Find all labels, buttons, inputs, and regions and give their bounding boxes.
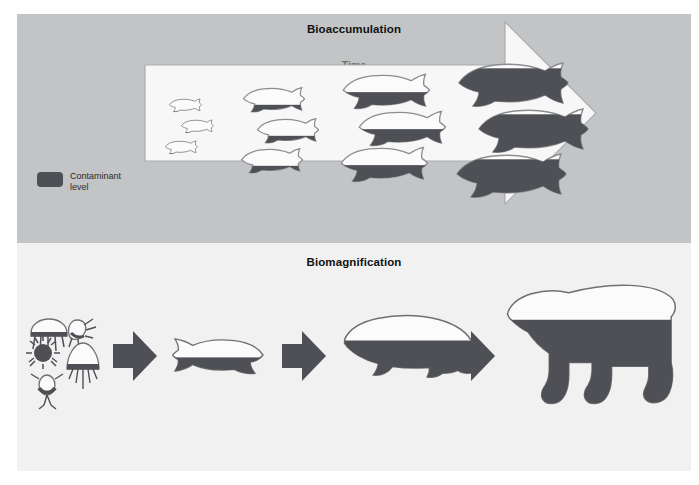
diagram-figure: Bioaccumulation Time (0, 0, 699, 485)
legend-bioaccumulation: Contaminant level (37, 171, 121, 193)
plankton-larva-icon (31, 374, 63, 409)
biomagnification-graphic (17, 243, 691, 471)
trophic-level-2-fish (167, 339, 269, 377)
plankton-bell-jellyfish-icon (67, 343, 99, 389)
contaminant-level-swatch (37, 172, 63, 187)
plankton-radiolarian-icon (26, 336, 60, 369)
bioaccumulation-graphic (17, 14, 691, 243)
panel-biomagnification: Biomagnification (17, 243, 691, 471)
legend-label: Contaminant level (70, 171, 121, 193)
trophic-level-4-polar-bear (500, 285, 681, 408)
trophic-level-1-plankton (26, 319, 99, 409)
food-chain-arrow-1 (113, 331, 157, 381)
panel-bioaccumulation: Bioaccumulation Time (17, 14, 691, 243)
food-chain-arrow-2 (282, 331, 326, 381)
